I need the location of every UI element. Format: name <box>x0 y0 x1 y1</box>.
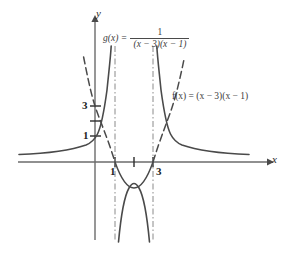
y-tick-label-1: 1 <box>83 130 89 141</box>
asymptotes-group <box>115 46 153 242</box>
curve-f <box>84 57 185 188</box>
x-tick-label-1: 1 <box>110 166 116 177</box>
y-axis-label: y <box>96 8 101 19</box>
x-tick-label-3: 3 <box>156 166 162 177</box>
function-label-g-denominator: (x − 3)(x − 1) <box>130 38 189 50</box>
function-label-g-fraction: 1 (x − 3)(x − 1) <box>130 28 189 49</box>
function-label-g-numerator: 1 <box>130 28 189 38</box>
curve-g-left-branch <box>19 46 111 155</box>
curve-f-right-branch <box>153 57 185 162</box>
y-tick-label-3: 3 <box>82 100 88 111</box>
curve-f-left-branch <box>84 57 115 162</box>
function-label-f: f(x) = (x − 3)(x − 1) <box>172 92 248 102</box>
curve-g <box>19 46 249 242</box>
function-label-g: g(x) = 1 (x − 3)(x − 1) <box>103 28 190 49</box>
x-axis-label: x <box>272 154 277 165</box>
tick-marks-group <box>90 106 153 167</box>
function-label-g-prefix: g(x) = <box>103 33 127 43</box>
curve-g-middle-branch <box>119 184 150 243</box>
graph-figure: y x 3 1 1 3 g(x) = 1 (x − 3)(x − 1) f(x)… <box>0 0 284 253</box>
